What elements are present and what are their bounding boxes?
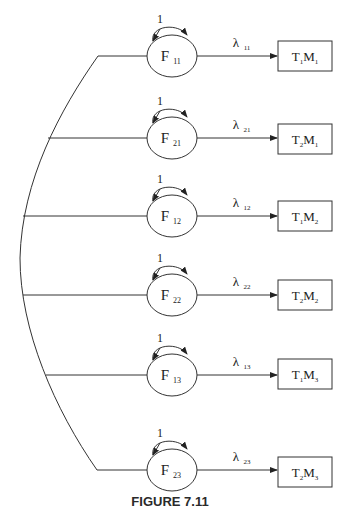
loading-label: λ xyxy=(233,195,240,210)
latent-factor-node xyxy=(147,354,197,396)
loading-subscript: 12 xyxy=(244,204,252,212)
path-diagram: F111λ11T1M1F211λ21T2M1F121λ12T1M2F221λ22… xyxy=(0,0,349,517)
factor-subscript: 21 xyxy=(173,139,181,148)
loading-label: λ xyxy=(233,274,240,289)
factor-subscript: 13 xyxy=(173,376,181,385)
latent-factor-node xyxy=(147,195,197,237)
loading-subscript: 23 xyxy=(244,458,252,466)
factor-label: F xyxy=(161,208,169,224)
factor-label: F xyxy=(161,287,169,303)
factor-row: F211λ21T2M1 xyxy=(48,94,332,159)
figure-caption: FIGURE 7.11 xyxy=(131,494,208,509)
variance-label: 1 xyxy=(157,426,163,440)
factor-subscript: 22 xyxy=(173,296,181,305)
indicator-label: T2M3 xyxy=(292,465,319,482)
loading-label: λ xyxy=(233,117,240,132)
factor-row: F121λ12T1M2 xyxy=(23,172,332,237)
loading-label: λ xyxy=(233,449,240,464)
variance-label: 1 xyxy=(157,12,163,26)
factor-row: F131λ13T1M3 xyxy=(46,331,332,396)
factor-subscript: 11 xyxy=(173,57,181,66)
variance-label: 1 xyxy=(157,94,163,108)
indicator-label: T1M3 xyxy=(292,367,319,384)
indicator-label: T2M1 xyxy=(292,132,319,149)
latent-factor-node xyxy=(147,35,197,77)
loading-subscript: 11 xyxy=(244,44,251,52)
factor-correlation-curve xyxy=(20,56,98,470)
loading-subscript: 22 xyxy=(244,283,252,291)
variance-label: 1 xyxy=(157,251,163,265)
factor-row: F231λ23T2M3 xyxy=(97,426,332,491)
latent-factor-node xyxy=(147,274,197,316)
loading-label: λ xyxy=(233,35,240,50)
factor-row: F221λ22T2M2 xyxy=(23,251,332,316)
factor-label: F xyxy=(161,462,169,478)
factor-subscript: 12 xyxy=(173,217,181,226)
factor-label: F xyxy=(161,48,169,64)
loading-subscript: 13 xyxy=(244,363,252,371)
indicator-label: T1M2 xyxy=(292,209,319,226)
factor-subscript: 23 xyxy=(173,471,181,480)
variance-label: 1 xyxy=(157,331,163,345)
variance-label: 1 xyxy=(157,172,163,186)
latent-factor-node xyxy=(147,117,197,159)
factor-label: F xyxy=(161,367,169,383)
factor-label: F xyxy=(161,130,169,146)
latent-factor-node xyxy=(147,449,197,491)
indicator-label: T1M1 xyxy=(292,49,319,66)
factor-row: F111λ11T1M1 xyxy=(98,12,332,77)
loading-subscript: 21 xyxy=(244,126,252,134)
indicator-label: T2M2 xyxy=(292,288,319,305)
loading-label: λ xyxy=(233,354,240,369)
